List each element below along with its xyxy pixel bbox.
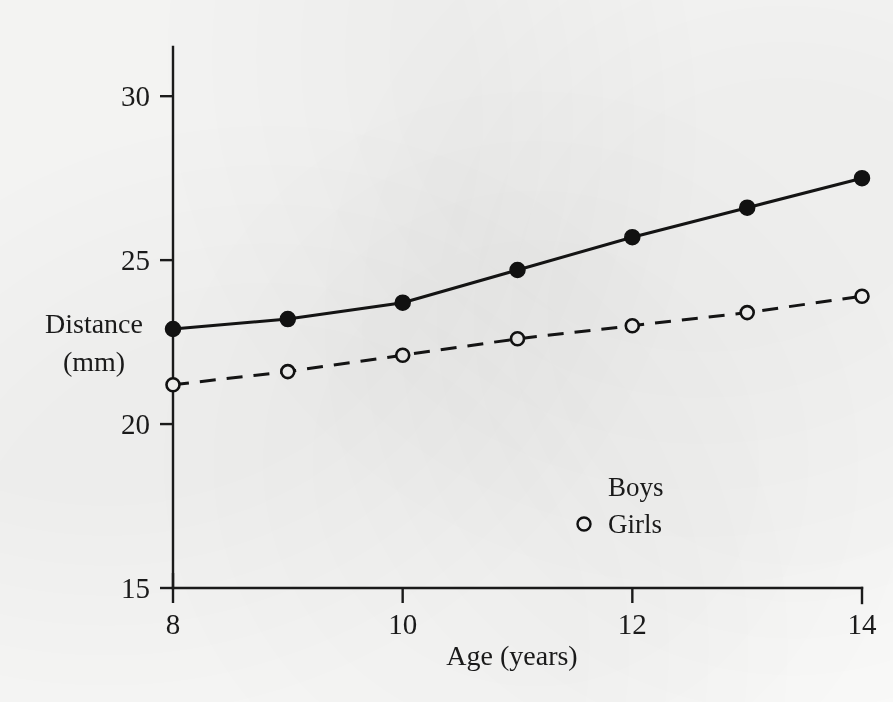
series-line-boys: [173, 178, 862, 329]
data-point-girls: [626, 319, 639, 332]
legend-label-boys: Boys: [608, 472, 664, 502]
data-point-boys: [395, 295, 410, 310]
data-point-girls: [511, 332, 524, 345]
legend-marker-girls: [578, 518, 591, 531]
series-layer: [166, 171, 870, 392]
x-tick-label: 12: [618, 608, 647, 640]
y-axis-title-line1: Distance: [45, 308, 143, 339]
x-axis-ticks: 8101214: [166, 573, 877, 640]
figure-canvas: 15202530 8101214 Distance (mm) Age (year…: [0, 0, 893, 702]
data-point-boys: [855, 171, 870, 186]
data-point-boys: [280, 312, 295, 327]
data-point-boys: [510, 263, 525, 278]
chart-legend: BoysGirls: [578, 472, 664, 539]
data-point-girls: [167, 378, 180, 391]
data-point-girls: [856, 290, 869, 303]
data-point-boys: [166, 322, 181, 337]
axes-group: [173, 47, 862, 603]
y-axis-title-line2: (mm): [63, 346, 125, 377]
data-point-girls: [741, 306, 754, 319]
x-tick-label: 8: [166, 608, 181, 640]
distance-vs-age-chart: 15202530 8101214 Distance (mm) Age (year…: [0, 0, 893, 702]
x-tick-label: 14: [848, 608, 878, 640]
x-axis-title: Age (years): [446, 640, 577, 671]
data-point-girls: [281, 365, 294, 378]
data-point-boys: [625, 230, 640, 245]
x-tick-label: 10: [388, 608, 417, 640]
data-point-girls: [396, 349, 409, 362]
y-axis-ticks: 15202530: [121, 80, 173, 604]
legend-label-girls: Girls: [608, 509, 662, 539]
y-tick-label: 25: [121, 244, 150, 276]
y-tick-label: 20: [121, 408, 150, 440]
data-point-boys: [740, 200, 755, 215]
y-tick-label: 15: [121, 572, 150, 604]
y-tick-label: 30: [121, 80, 150, 112]
